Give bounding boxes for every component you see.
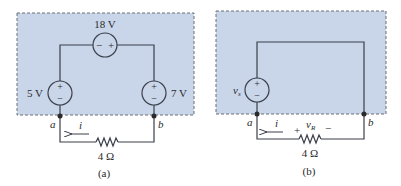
caption-b: (b) <box>303 165 316 178</box>
node-b-label: b <box>368 116 374 128</box>
shaded-region-b <box>216 11 386 114</box>
node-a-dot <box>58 114 63 119</box>
plus-sign: + <box>151 81 157 92</box>
node-b-label: b <box>158 118 164 130</box>
resistor-b <box>299 135 321 143</box>
node-a-dot <box>255 112 260 117</box>
node-a-label: a <box>50 118 56 130</box>
plus-sign: + <box>57 81 63 92</box>
resistor-a <box>96 138 118 146</box>
resistor-label-b: 4 Ω <box>302 147 318 159</box>
voltage-source-7v: + − <box>142 81 166 105</box>
resistor-label-a: 4 Ω <box>98 150 114 162</box>
vr-label: vR <box>306 118 316 132</box>
vr-plus: + <box>294 124 300 136</box>
minus-sign: − <box>151 93 157 104</box>
panel-b: + − vs a b i + vR − 4 Ω (b) <box>216 11 386 178</box>
minus-sign: − <box>96 39 102 51</box>
current-label: i <box>79 119 82 131</box>
voltage-source-18v: − + <box>93 33 117 57</box>
node-a-label: a <box>247 116 253 128</box>
label-18v: 18 V <box>94 18 116 30</box>
voltage-source-5v: + − <box>48 81 72 105</box>
node-b-dot <box>152 114 157 119</box>
caption-a: (a) <box>98 167 111 180</box>
voltage-source-vs: + − <box>245 78 269 102</box>
plus-sign: + <box>254 78 260 89</box>
node-b-dot <box>362 112 367 117</box>
label-5v: 5 V <box>27 87 43 99</box>
panel-a: − + 18 V + − 5 V + − 7 V a b i 4 Ω (a) <box>17 13 194 180</box>
minus-sign: − <box>254 90 260 101</box>
current-label: i <box>275 117 278 129</box>
circuit-figure: − + 18 V + − 5 V + − 7 V a b i 4 Ω (a) <box>0 0 401 186</box>
minus-sign: − <box>57 93 63 104</box>
vr-minus: − <box>325 122 331 134</box>
label-7v: 7 V <box>171 87 187 99</box>
plus-sign: + <box>108 39 114 51</box>
